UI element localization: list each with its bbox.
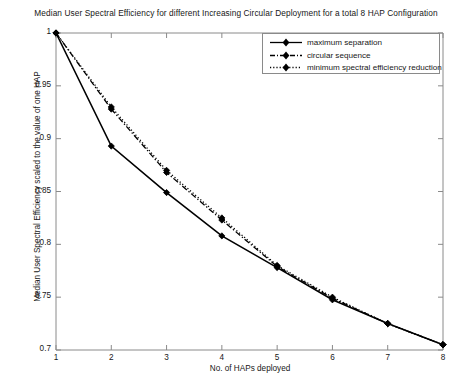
- legend-item-minimum-spectral-efficiency-reduction: minimum spectral efficiency reduction: [263, 61, 441, 74]
- axis-frame: [56, 33, 443, 350]
- legend-label: minimum spectral efficiency reduction: [307, 62, 442, 74]
- x-tick-label: 8: [434, 353, 452, 362]
- legend-line-sample-dotted-icon: [269, 61, 303, 74]
- data-point: [385, 320, 391, 326]
- x-tick-label: 1: [47, 353, 65, 362]
- figure: Median User Spectral Efficiency for diff…: [0, 0, 472, 387]
- x-tick-label: 7: [379, 353, 397, 362]
- series-1: [53, 30, 446, 348]
- x-tick-label: 5: [268, 353, 286, 362]
- y-tick-label: 1: [17, 27, 51, 36]
- y-tick-label: 0.75: [17, 291, 51, 300]
- series-2: [53, 30, 446, 348]
- y-tick-label: 0.9: [17, 133, 51, 142]
- legend: maximum separation circular sequence min…: [262, 33, 440, 74]
- legend-item-maximum-separation: maximum separation: [263, 36, 441, 49]
- x-tick-label: 3: [158, 353, 176, 362]
- y-tick-label: 0.8: [17, 238, 51, 247]
- y-tick-label: 0.7: [17, 344, 51, 353]
- series-0: [53, 30, 446, 348]
- legend-line-sample-solid-icon: [269, 36, 303, 49]
- x-tick-label: 4: [213, 353, 231, 362]
- y-tick-label: 0.95: [17, 80, 51, 89]
- tick-marks: [56, 33, 443, 350]
- legend-label: maximum separation: [307, 37, 382, 49]
- y-tick-label: 0.85: [17, 186, 51, 195]
- x-tick-label: 6: [323, 353, 341, 362]
- x-tick-label: 2: [102, 353, 120, 362]
- data-point: [440, 342, 446, 348]
